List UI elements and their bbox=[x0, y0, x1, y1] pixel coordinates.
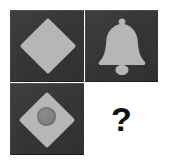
circle-icon bbox=[37, 107, 56, 126]
diamond-icon bbox=[20, 18, 77, 75]
puzzle-figure: ? bbox=[0, 0, 173, 165]
puzzle-tile-bottom-left[interactable] bbox=[10, 83, 84, 155]
puzzle-tile-bottom-right-empty[interactable]: ? bbox=[85, 83, 158, 155]
puzzle-tile-top-right[interactable] bbox=[85, 10, 158, 82]
bell-icon bbox=[98, 17, 146, 75]
tile-glyph-layer bbox=[10, 83, 84, 155]
tile-glyph-layer bbox=[85, 10, 158, 82]
question-mark-icon: ? bbox=[111, 102, 132, 136]
puzzle-tile-top-left[interactable] bbox=[10, 10, 84, 82]
tile-glyph-layer bbox=[10, 10, 84, 82]
